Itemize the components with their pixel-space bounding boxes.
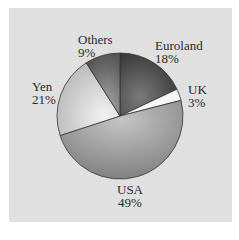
label-euroland: Euroland 18% (155, 39, 203, 65)
label-usa: USA 49% (117, 183, 143, 209)
label-euroland-pct: 18% (155, 52, 203, 65)
label-yen: Yen 21% (32, 80, 56, 106)
label-uk-pct: 3% (188, 96, 207, 109)
label-yen-pct: 21% (32, 93, 56, 106)
label-others-pct: 9% (78, 46, 113, 59)
label-uk: UK 3% (188, 83, 207, 109)
label-usa-pct: 49% (117, 196, 143, 209)
label-others: Others 9% (78, 33, 113, 59)
